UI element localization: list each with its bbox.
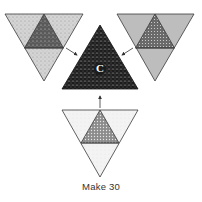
center-block: [62, 25, 138, 89]
top-left-unit: [5, 14, 83, 81]
arrow-top-left: [66, 48, 77, 55]
arrow-top-right: [122, 48, 133, 55]
top-right-unit: [117, 14, 194, 81]
caption: Make 30: [0, 181, 202, 192]
triangle-assembly-diagram: [0, 0, 202, 202]
bottom-unit: [62, 110, 138, 177]
center-label: C: [94, 62, 106, 74]
